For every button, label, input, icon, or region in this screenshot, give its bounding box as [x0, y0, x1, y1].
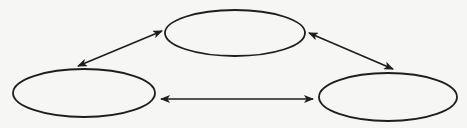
cycle-diagram: [0, 0, 467, 128]
double-arrow-left-top: [78, 31, 162, 66]
ellipse-node-right: [319, 73, 457, 121]
ellipse-shape: [319, 73, 457, 121]
ellipse-node-top: [165, 10, 305, 56]
ellipse-shape: [13, 69, 155, 117]
ellipse-shape: [165, 10, 305, 56]
edges-group: [78, 31, 393, 99]
double-arrow-top-right: [309, 33, 393, 69]
ellipse-node-left: [13, 69, 155, 117]
